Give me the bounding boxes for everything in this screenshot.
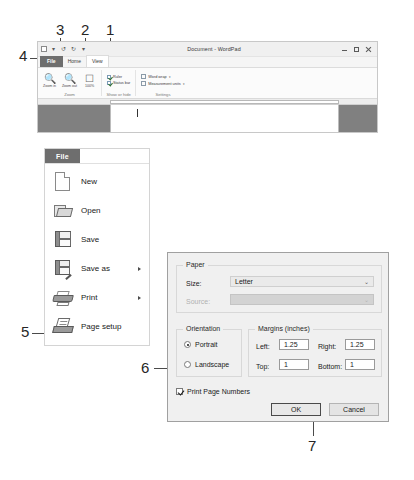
submenu-arrow-icon: [138, 296, 141, 300]
radio-portrait[interactable]: Portrait: [184, 341, 218, 348]
window-title: Document - WordPad: [87, 46, 341, 52]
paper-group: Paper: [176, 265, 382, 313]
ruler-label: Ruler: [113, 75, 122, 79]
top-margin-value: 1: [280, 361, 288, 368]
landscape-radio-dot[interactable]: [184, 361, 191, 368]
zoom-in-icon: 🔍: [44, 73, 56, 84]
paper-source-select: ⌄: [230, 294, 374, 305]
menu-item-save-label: Save: [81, 235, 99, 244]
paper-size-value: Letter: [231, 278, 364, 285]
bottom-margin-input[interactable]: 1: [345, 359, 375, 370]
dropdown-word-wrap[interactable]: Word wrap ▾: [141, 74, 184, 79]
file-menu-panel: File New Open Save Save as: [44, 148, 150, 346]
chevron-down-icon[interactable]: ▾: [49, 45, 57, 53]
checkbox-ruler[interactable]: Ruler: [107, 75, 130, 79]
orientation-group-label: Orientation: [183, 325, 223, 332]
menu-item-new[interactable]: New: [45, 167, 149, 196]
menu-item-page-setup[interactable]: Page setup: [45, 312, 149, 341]
zoom-in-caption: Zoom in: [43, 84, 56, 88]
ribbon-group-show-hide: Ruler Status bar Show or hide: [102, 68, 135, 98]
zoom-100-icon: ☐: [85, 73, 94, 84]
portrait-label: Portrait: [195, 341, 218, 348]
print-page-numbers-box[interactable]: [176, 388, 183, 395]
ribbon-group-show-hide-label: Show or hide: [102, 92, 135, 98]
ruler-checkbox-box[interactable]: [107, 75, 111, 79]
paper-group-label: Paper: [183, 261, 208, 268]
callout-1: 1: [106, 22, 114, 37]
callout-3: 3: [56, 22, 64, 37]
bottom-margin-value: 1: [346, 361, 354, 368]
document-page[interactable]: [110, 105, 339, 133]
callout-2: 2: [81, 22, 89, 37]
callout-7: 7: [308, 438, 316, 453]
menu-item-save-as-label: Save as: [81, 264, 110, 273]
tab-view[interactable]: View: [86, 55, 109, 67]
top-margin-label: Top:: [256, 363, 269, 370]
window-controls[interactable]: [341, 46, 375, 53]
customize-qat-icon[interactable]: ▾: [79, 45, 87, 53]
size-label: Size:: [186, 280, 202, 287]
zoom-out-icon: 🔍: [64, 73, 76, 84]
save-as-icon: [52, 258, 74, 280]
menu-item-save[interactable]: Save: [45, 225, 149, 254]
chevron-down-icon: ⌄: [364, 278, 373, 285]
zoom-in-button[interactable]: 🔍 Zoom in: [41, 73, 58, 88]
print-page-numbers-label: Print Page Numbers: [187, 388, 250, 395]
right-margin-input[interactable]: 1.25: [345, 339, 375, 350]
redo-icon[interactable]: ↻: [69, 45, 77, 53]
portrait-radio-dot[interactable]: [184, 341, 191, 348]
checkbox-print-page-numbers[interactable]: Print Page Numbers: [176, 388, 250, 395]
status-bar-checkbox-box[interactable]: [107, 81, 111, 85]
chevron-down-icon: ⌄: [364, 296, 373, 303]
zoom-100-button[interactable]: ☐ 100%: [81, 73, 98, 88]
right-margin-label: Right:: [318, 343, 336, 350]
callout-4: 4: [19, 48, 27, 63]
dropdown-measurement-units[interactable]: Measurement units ▾: [141, 81, 184, 86]
save-floppy-icon: [52, 229, 74, 251]
measurement-units-label: Measurement units: [148, 82, 180, 86]
callout-6: 6: [141, 360, 149, 375]
right-margin-value: 1.25: [346, 341, 364, 348]
menu-item-print[interactable]: Print: [45, 283, 149, 312]
file-menu-header: File: [45, 149, 149, 164]
tab-file[interactable]: File: [40, 56, 63, 67]
tab-home[interactable]: Home: [63, 56, 86, 67]
radio-landscape[interactable]: Landscape: [184, 361, 229, 368]
close-button[interactable]: [365, 46, 372, 53]
maximize-button[interactable]: [353, 46, 360, 53]
ribbon-tabs[interactable]: File Home View: [38, 57, 377, 68]
zoom-out-button[interactable]: 🔍 Zoom out: [61, 73, 78, 88]
ribbon-view: 🔍 Zoom in 🔍 Zoom out ☐ 100% Zoom: [38, 68, 377, 99]
chevron-down-icon: ▾: [183, 82, 185, 86]
measurement-units-icon: [141, 81, 146, 86]
menu-item-save-as[interactable]: Save as: [45, 254, 149, 283]
ok-button[interactable]: OK: [271, 403, 321, 416]
screenshot-root: 1 2 3 4 5 6 7 ▾ ↺ ↻ ▾ Document - WordPad: [0, 0, 414, 480]
wordpad-window: ▾ ↺ ↻ ▾ Document - WordPad File Home Vie…: [37, 41, 378, 133]
menu-item-new-label: New: [81, 177, 97, 186]
document-area[interactable]: [38, 105, 377, 133]
menu-item-open-label: Open: [81, 206, 101, 215]
left-margin-label: Left:: [256, 343, 270, 350]
menu-item-open[interactable]: Open: [45, 196, 149, 225]
status-bar-label: Status bar: [113, 81, 130, 85]
ribbon-group-settings: Word wrap ▾ Measurement units ▾ Settings: [136, 68, 189, 98]
minimize-button[interactable]: [341, 46, 348, 53]
menu-item-page-setup-label: Page setup: [81, 322, 121, 331]
menu-item-print-label: Print: [81, 293, 97, 302]
chevron-down-icon: ▾: [169, 75, 171, 79]
save-quick-icon[interactable]: [41, 46, 47, 52]
left-margin-value: 1.25: [280, 341, 298, 348]
quick-access-toolbar[interactable]: ▾ ↺ ↻ ▾: [40, 45, 87, 53]
paper-size-select[interactable]: Letter ⌄: [230, 276, 374, 287]
ribbon-group-settings-label: Settings: [136, 92, 189, 98]
ruler-ticks: [112, 101, 337, 103]
landscape-label: Landscape: [195, 361, 229, 368]
checkbox-status-bar[interactable]: Status bar: [107, 81, 130, 85]
left-margin-input[interactable]: 1.25: [279, 339, 309, 350]
cancel-button[interactable]: Cancel: [329, 403, 379, 416]
file-menu-tab[interactable]: File: [45, 149, 80, 163]
new-document-icon: [52, 171, 74, 193]
top-margin-input[interactable]: 1: [279, 359, 309, 370]
undo-icon[interactable]: ↺: [59, 45, 67, 53]
